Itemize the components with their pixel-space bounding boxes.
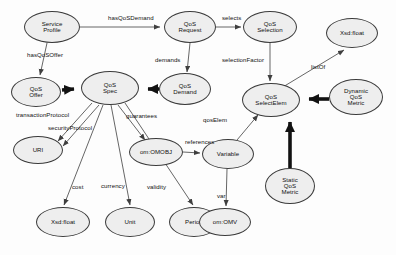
node-label-line: Request: [178, 27, 201, 33]
edge-label-hasQoSOffer: hasQoSOffer: [27, 51, 63, 58]
edge-label-securityProtocol: securityProtocol: [48, 124, 92, 131]
node-static-qos-metric[interactable]: Static QoS Metric: [265, 168, 315, 204]
node-uri[interactable]: URI: [13, 136, 63, 164]
diagram-canvas: Service Profile QoS Request QoS Selectio…: [0, 0, 396, 255]
node-label-line: SelectElem: [255, 100, 286, 106]
edge-label-var: var: [217, 192, 226, 199]
edge-label-hasQoSDemand: hasQoSDemand: [108, 14, 154, 21]
node-label-line: Metric: [344, 100, 368, 106]
node-om-omobj[interactable]: om:OMOBJ: [129, 138, 183, 166]
node-qos-request[interactable]: QoS Request: [164, 11, 216, 43]
edge-label-cost: cost: [72, 183, 83, 190]
node-label-line: Xsd:float: [51, 219, 75, 225]
node-label-line: Metric: [282, 189, 299, 195]
edge-label-validity: validity: [147, 183, 166, 190]
node-unit[interactable]: Unit: [105, 207, 155, 237]
edge-label-demands: demands: [155, 56, 180, 63]
node-xsd-float-bottom[interactable]: Xsd:float: [36, 207, 90, 237]
edge-label-guarantees: guarantees: [126, 112, 157, 119]
node-label-line: Unit: [124, 219, 135, 225]
edge-label-currency: currency: [101, 182, 125, 189]
node-label-line: Selection: [257, 27, 283, 33]
edge-references: [183, 152, 200, 153]
edge-qosElem: [237, 115, 258, 140]
edge-qosOffer-to-qosSpec: [62, 89, 74, 90]
node-qos-offer[interactable]: QoS Offer: [11, 77, 61, 107]
edge-currency: [111, 105, 130, 205]
edge-cost: [64, 105, 103, 205]
edge-demands: [187, 43, 190, 72]
node-qos-spec[interactable]: QoS Spec: [81, 71, 139, 105]
node-label-line: Xsd:float: [340, 30, 364, 36]
node-service-profile[interactable]: Service Profile: [24, 11, 80, 43]
edge-hasQoSOffer: [40, 43, 47, 75]
edge-label-selectionFactor: selectionFactor: [222, 56, 264, 63]
node-label-line: om:OMOBJ: [140, 149, 172, 155]
node-qos-selection[interactable]: QoS Selection: [243, 11, 297, 43]
node-label-line: Offer: [29, 92, 43, 98]
node-label-line: Profile: [42, 27, 63, 33]
node-qos-selectelem[interactable]: QoS SelectElem: [242, 83, 300, 117]
node-xsd-float-top[interactable]: Xsd:float: [326, 18, 378, 48]
node-om-omv[interactable]: om:OMV: [199, 208, 251, 236]
node-label-line: Demand: [173, 89, 196, 95]
node-dynamic-qos-metric[interactable]: Dynamic QoS Metric: [329, 79, 383, 115]
edge-transactionProtocol: [58, 103, 92, 141]
edge-label-qosElem: qosElem: [203, 116, 227, 123]
edge-label-listOf: listOf: [311, 63, 325, 70]
node-qos-demand[interactable]: QoS Demand: [159, 73, 211, 105]
edge-var: [226, 169, 227, 206]
node-label-line: URI: [33, 147, 44, 153]
edge-label-transactionProtocol: transactionProtocol: [16, 111, 69, 118]
node-label-line: Variable: [217, 151, 239, 157]
edge-label-references: references: [185, 138, 214, 145]
node-label-line: Spec: [103, 88, 117, 94]
edge-guarantees: [118, 105, 145, 140]
node-label-line: om:OMV: [213, 219, 237, 225]
edge-label-selects: selects: [222, 14, 241, 21]
